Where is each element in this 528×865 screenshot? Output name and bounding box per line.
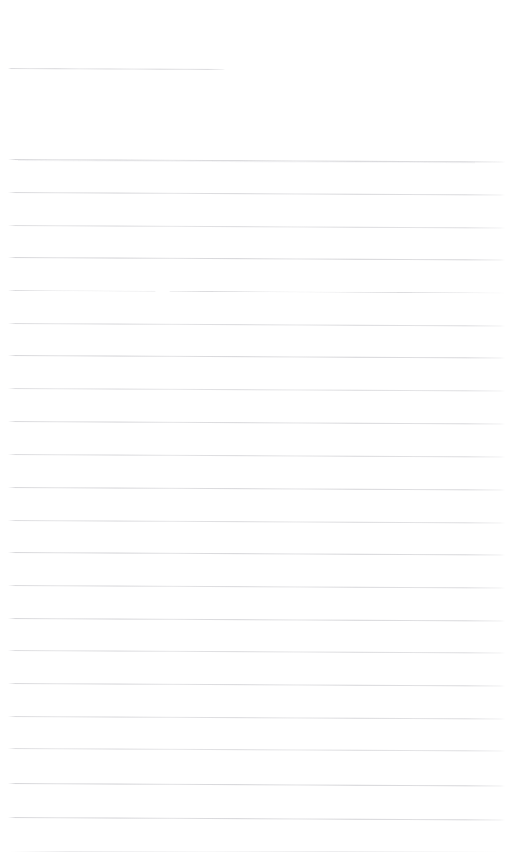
title-write-area[interactable]	[8, 46, 225, 68]
body-write-area[interactable]	[8, 133, 505, 817]
body-rule-21	[8, 817, 505, 820]
title-rule	[8, 68, 225, 70]
scanned-page	[0, 0, 528, 865]
bottom-scan-trace	[10, 851, 500, 852]
